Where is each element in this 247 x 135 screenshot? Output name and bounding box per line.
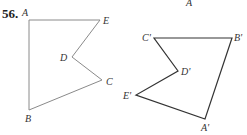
stray-label: A: [185, 0, 193, 8]
polygon-image: [136, 38, 232, 119]
vertex-label-a-prime: A': [200, 122, 210, 133]
problem-number: 56.: [2, 6, 18, 21]
vertex-label-e: E: [102, 15, 109, 26]
vertex-label-b: B: [25, 113, 31, 124]
vertex-label-c: C: [106, 76, 113, 87]
diagram: 56. A E D C B C' B' D' E' A' A: [0, 0, 247, 135]
polygon-original: [29, 20, 102, 110]
vertex-label-d: D: [59, 52, 68, 63]
vertex-label-b-prime: B': [234, 32, 243, 43]
vertex-label-a: A: [21, 7, 29, 18]
vertex-label-d-prime: D': [180, 66, 191, 77]
vertex-label-c-prime: C': [142, 32, 152, 43]
vertex-label-e-prime: E': [122, 90, 132, 101]
